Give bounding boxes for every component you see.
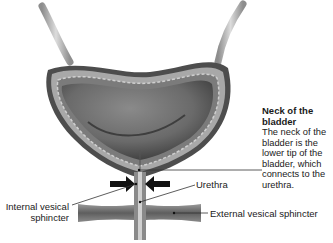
internal-sphincter-label: Internal vesical sphincter bbox=[2, 201, 69, 223]
neck-description: The neck of the bladder is the lower tip… bbox=[262, 127, 333, 191]
neck-of-bladder-label: Neck of the bladder The neck of the blad… bbox=[262, 105, 333, 191]
left-arrow-icon bbox=[110, 176, 135, 192]
external-sphincter-muscle bbox=[78, 204, 134, 222]
left-ureter bbox=[42, 6, 70, 62]
right-arrow-icon bbox=[145, 176, 170, 192]
neck-title: Neck of the bladder bbox=[262, 105, 333, 127]
right-ureter bbox=[218, 4, 243, 62]
urethra-label: Urethra bbox=[196, 179, 228, 190]
urethra-leader-line bbox=[140, 185, 195, 202]
external-sphincter-label: External vesical sphincter bbox=[210, 208, 318, 219]
internal-sphincter-leader-line bbox=[72, 184, 136, 205]
